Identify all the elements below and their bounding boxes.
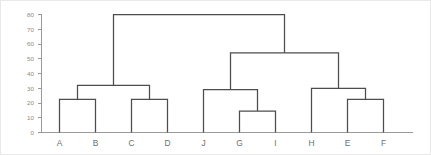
y-axis-ticks [38,15,42,133]
dendrogram-figure: 80 70 60 50 40 30 20 10 0 [0,0,431,155]
leaf-label-A: A [57,138,63,148]
dendrogram-link-m9 [114,15,285,86]
y-tick-label-10: 10 [27,114,34,121]
y-tick-label-80: 80 [27,11,34,18]
y-tick-label-20: 20 [27,99,34,106]
leaf-label-H: H [308,138,314,148]
dendrogram-plot: 80 70 60 50 40 30 20 10 0 [1,1,431,155]
leaf-label-I: I [274,138,276,148]
dendrogram-link-m7 [312,88,366,132]
dendrogram-link-m4 [240,111,276,132]
y-tick-label-40: 40 [27,70,34,77]
dendrogram-link-m3 [78,85,150,99]
leaf-label-G: G [236,138,243,148]
dendrogram-link-m8 [231,53,339,90]
leaf-label-F: F [381,138,386,148]
leaf-label-D: D [164,138,170,148]
y-axis-tick-labels: 80 70 60 50 40 30 20 10 0 [27,11,34,136]
leaf-label-E: E [345,138,351,148]
dendrogram-links [60,15,384,133]
y-tick-label-60: 60 [27,40,34,47]
x-axis: A B C D J G I H E F [42,128,414,149]
leaf-label-J: J [201,138,205,148]
dendrogram-link-m6 [348,99,384,132]
y-tick-label-50: 50 [27,55,34,62]
leaf-label-C: C [128,138,134,148]
y-tick-label-70: 70 [27,26,34,33]
dendrogram-link-m2 [132,99,168,132]
x-axis-ticks [60,128,384,133]
leaf-label-B: B [93,138,99,148]
y-axis: 80 70 60 50 40 30 20 10 0 [27,11,41,136]
y-tick-label-30: 30 [27,85,34,92]
x-axis-leaf-labels: A B C D J G I H E F [57,138,386,148]
y-tick-label-0: 0 [31,129,35,136]
dendrogram-link-m1 [60,99,96,132]
